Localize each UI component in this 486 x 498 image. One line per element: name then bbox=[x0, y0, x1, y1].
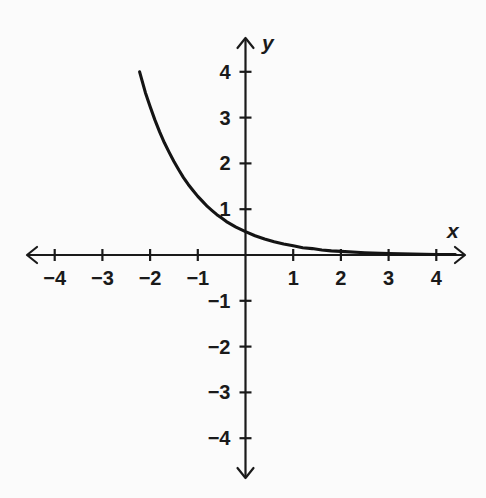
x-tick-label: 4 bbox=[431, 267, 443, 289]
x-tick-label: −3 bbox=[91, 267, 114, 289]
x-axis-tick-labels: −4−3−2−11234 bbox=[43, 267, 442, 289]
y-axis-group bbox=[238, 38, 254, 478]
y-tick-label: −2 bbox=[208, 336, 231, 358]
y-tick-label: 2 bbox=[219, 152, 230, 174]
x-tick-label: −1 bbox=[186, 267, 209, 289]
graph-figure: −4−3−2−11234 4321−1−2−3−4 x y bbox=[0, 0, 486, 498]
y-tick-label: −3 bbox=[208, 381, 231, 403]
y-tick-label: 3 bbox=[219, 107, 230, 129]
y-tick-label: −4 bbox=[208, 427, 232, 449]
y-tick-label: 1 bbox=[219, 198, 230, 220]
y-axis-label: y bbox=[261, 31, 275, 54]
x-tick-label: 3 bbox=[383, 267, 394, 289]
exponential-curve bbox=[140, 72, 456, 255]
x-tick-label: −2 bbox=[139, 267, 162, 289]
x-axis-label: x bbox=[446, 219, 460, 242]
y-tick-label: 4 bbox=[219, 61, 231, 83]
x-tick-label: 2 bbox=[335, 267, 346, 289]
x-tick-label: −4 bbox=[43, 267, 67, 289]
y-tick-label: −1 bbox=[208, 290, 231, 312]
coordinate-plane-svg: −4−3−2−11234 4321−1−2−3−4 x y bbox=[0, 0, 486, 498]
x-tick-label: 1 bbox=[288, 267, 299, 289]
